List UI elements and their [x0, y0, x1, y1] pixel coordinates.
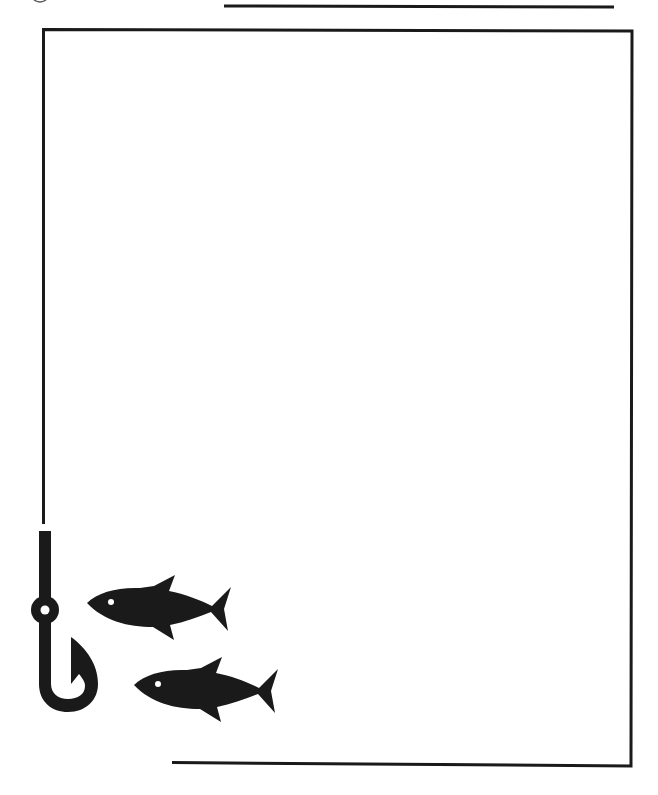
cropped-glyph-fragment	[34, 0, 46, 2]
document-page	[0, 0, 658, 795]
document-title	[60, 45, 61, 46]
blank-writing-area	[60, 45, 615, 745]
document-body	[60, 45, 61, 46]
top-detached-line	[224, 6, 614, 7]
